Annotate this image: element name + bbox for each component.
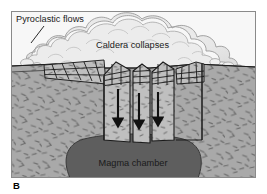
subsided-block-2: [133, 64, 150, 143]
caldera-collapse-figure: Pyroclastic flows Caldera collapses Magm…: [0, 0, 267, 194]
subsided-block-3: [152, 62, 174, 141]
label-caldera-collapses: Caldera collapses: [96, 40, 169, 50]
panel-letter: B: [13, 180, 20, 191]
figure-svg-canvas: Pyroclastic flows Caldera collapses Magm…: [0, 0, 267, 194]
label-magma-chamber: Magma chamber: [99, 158, 168, 168]
subsided-block-3-body: [152, 62, 174, 141]
figure-scene: Pyroclastic flows Caldera collapses Magm…: [11, 11, 256, 178]
label-pyroclastic-flows: Pyroclastic flows: [16, 14, 84, 24]
